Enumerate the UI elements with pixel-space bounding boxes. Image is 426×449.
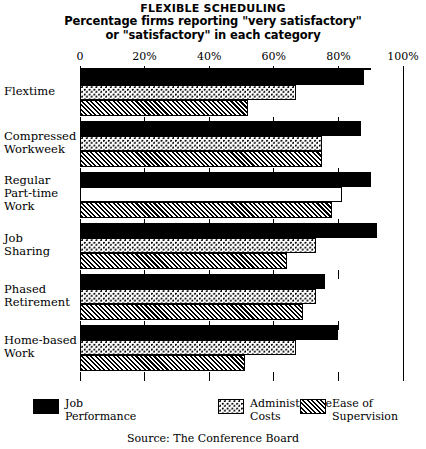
chart-title-block: FLEXIBLE SCHEDULING Percentage firms rep… (0, 2, 426, 42)
chart-root: FLEXIBLE SCHEDULING Percentage firms rep… (0, 0, 426, 449)
bar-ease-of-supervision (80, 304, 303, 319)
gridline-100-percent (403, 66, 404, 376)
gridline-segment (209, 372, 210, 381)
bar-administrative-costs (80, 187, 342, 202)
x-tick-label: 100% (387, 50, 418, 63)
hatched-swatch (300, 399, 326, 414)
bar-ease-of-supervision (80, 355, 245, 370)
category-label: PhasedRetirement (4, 283, 78, 309)
bar-administrative-costs (80, 85, 296, 100)
bar-ease-of-supervision (80, 151, 322, 166)
legend-label: Ease of Supervision (332, 398, 398, 423)
chart-subtitle-line1: Percentage firms reporting "very satisfa… (0, 15, 426, 29)
bar-job-performance (80, 121, 361, 136)
bar-job-performance (80, 223, 377, 238)
gridline-segment (80, 372, 81, 381)
chart-subtitle-line2: or "satisfactory" in each category (0, 29, 426, 43)
bar-job-performance (80, 325, 338, 340)
category-label: Home-basedWork (4, 334, 78, 360)
bar-administrative-costs (80, 136, 322, 151)
bar-administrative-costs (80, 340, 296, 355)
dotted-swatch (218, 399, 244, 414)
category-label: Flextime (4, 85, 78, 98)
x-tick-label: 80% (326, 50, 350, 63)
legend-label: Job Performance (65, 398, 136, 423)
x-tick-label: 0 (77, 50, 84, 63)
category-label: JobSharing (4, 232, 78, 258)
x-tick-label: 40% (197, 50, 221, 63)
x-tick-label: 20% (132, 50, 156, 63)
chart-legend: Job PerformanceAdministrative CostsEase … (0, 398, 426, 432)
bar-ease-of-supervision (80, 100, 248, 115)
category-label: CompressedWorkweek (4, 130, 78, 156)
category-label: RegularPart-timeWork (4, 174, 78, 213)
source-note: Source: The Conference Board (0, 432, 426, 445)
gridline-segment (338, 372, 339, 381)
gridline-segment (273, 372, 274, 381)
bar-job-performance (80, 274, 325, 289)
bar-ease-of-supervision (80, 253, 287, 268)
bar-administrative-costs (80, 289, 316, 304)
bar-job-performance (80, 172, 371, 187)
legend-item: Ease of Supervision (300, 398, 398, 423)
bar-administrative-costs (80, 238, 316, 253)
x-tick-label: 60% (262, 50, 286, 63)
bar-job-performance (80, 70, 364, 85)
solid-black-swatch (33, 399, 59, 414)
bar-ease-of-supervision (80, 202, 332, 217)
legend-item: Job Performance (33, 398, 136, 423)
gridline-segment (144, 372, 145, 381)
gridline-segment (338, 270, 339, 279)
